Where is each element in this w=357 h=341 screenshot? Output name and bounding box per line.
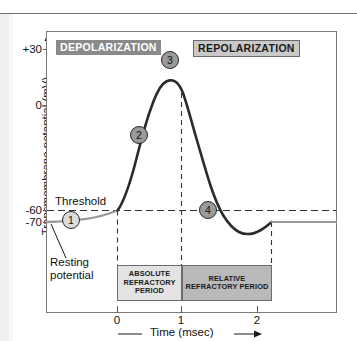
phase-label-depolarization: DEPOLARIZATION	[56, 40, 161, 55]
resting-potential-leader-line	[51, 224, 66, 258]
marker-1: 1	[62, 211, 80, 229]
x-tick-mark-0	[117, 306, 118, 313]
x-tick-mark-2	[257, 306, 258, 313]
relative-refractory-period-box: RELATIVE REFRACTORY PERIOD	[182, 265, 272, 301]
threshold-label: Threshold	[55, 195, 106, 208]
resting-potential-label-line1: Resting	[50, 256, 93, 269]
x-axis-title: Time (msec)	[120, 326, 183, 338]
marker-4: 4	[199, 201, 217, 219]
resting-potential-label-line2: potential	[50, 269, 93, 282]
absolute-refractory-period-box: ABSOLUTE REFRACTORY PERIOD	[117, 265, 182, 301]
marker-2: 2	[130, 126, 148, 144]
x-tick-label-1: 1	[171, 314, 191, 326]
marker-3: 3	[161, 51, 179, 69]
x-tick-mark-1	[181, 306, 182, 313]
action-potential-figure: Transmembrane potential (mV) +30 0 -60 -…	[0, 0, 357, 341]
x-axis-title-text: Time (msec)	[150, 326, 213, 338]
phase-label-repolarization: REPOLARIZATION	[193, 40, 300, 57]
x-tick-label-0: 0	[107, 314, 127, 326]
resting-potential-label: Resting potential	[50, 256, 93, 282]
x-tick-label-2: 2	[247, 314, 267, 326]
resting-curve-segment	[47, 211, 118, 223]
